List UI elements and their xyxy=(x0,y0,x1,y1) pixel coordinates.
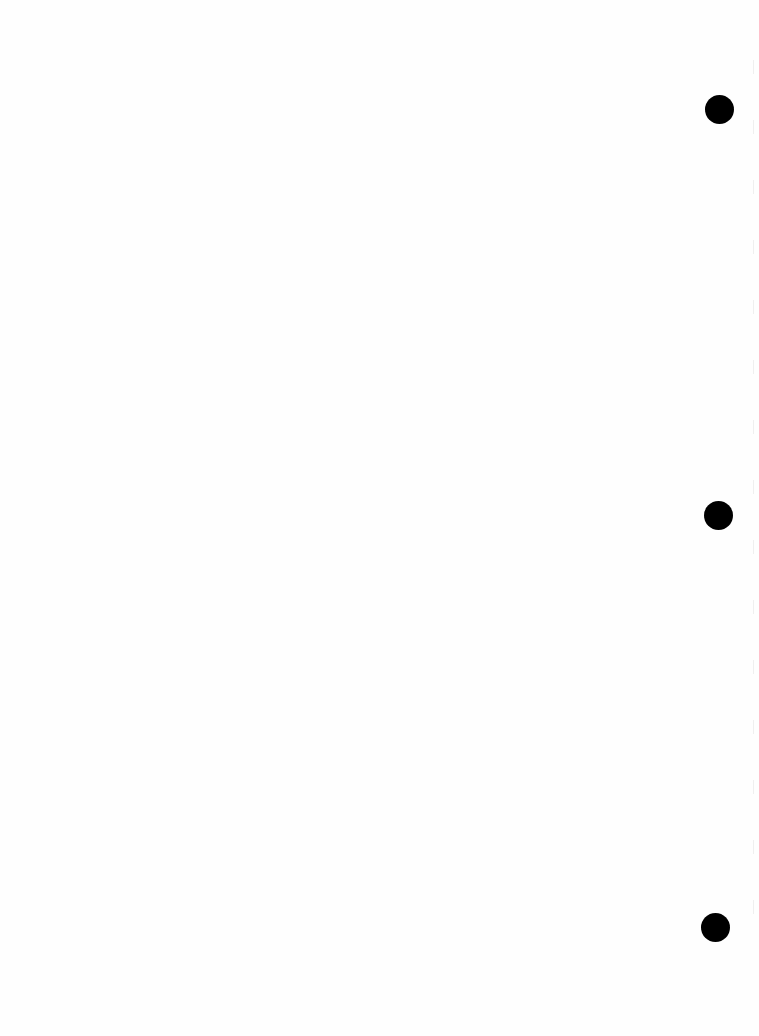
punch-hole-bottom xyxy=(701,913,730,942)
punch-hole-top xyxy=(705,95,734,124)
blank-page xyxy=(0,0,759,1036)
page-edge-line xyxy=(753,60,754,960)
punch-hole-middle xyxy=(704,501,733,530)
